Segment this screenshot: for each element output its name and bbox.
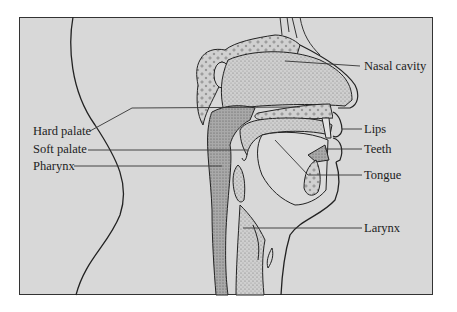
lower-lip — [333, 138, 342, 162]
label-soft-palate: Soft palate — [33, 143, 87, 156]
epiglottis — [233, 165, 245, 202]
upper-lip — [333, 112, 342, 137]
label-hard-palate: Hard palate — [33, 125, 91, 138]
label-pharynx: Pharynx — [33, 160, 75, 173]
larynx-region — [236, 205, 265, 295]
label-lips: Lips — [364, 123, 386, 136]
label-tongue: Tongue — [364, 169, 401, 182]
label-larynx: Larynx — [364, 222, 400, 235]
head-outline — [71, 17, 124, 295]
vocal-tract-illustration — [0, 0, 457, 312]
label-teeth: Teeth — [364, 143, 392, 156]
label-nasal-cavity: Nasal cavity — [364, 60, 426, 73]
